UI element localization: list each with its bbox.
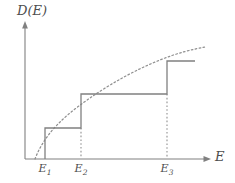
x-axis	[25, 156, 211, 162]
tick-label-E1: E1	[39, 162, 52, 177]
plot-canvas	[0, 0, 235, 183]
tick-label-E2-sub: 2	[83, 168, 88, 177]
tick-label-E3: E3	[161, 162, 174, 177]
y-axis	[22, 21, 28, 159]
tick-label-E3-base: E	[161, 162, 169, 175]
step-function-curve	[45, 61, 195, 159]
density-of-states-figure: D(E) E E1 E2 E3	[0, 0, 235, 183]
tick-label-E2-base: E	[75, 162, 83, 175]
tick-label-E1-base: E	[39, 162, 47, 175]
x-axis-arrowhead	[204, 156, 212, 162]
y-axis-title: D(E)	[17, 3, 47, 18]
smooth-envelope-curve	[35, 47, 205, 159]
y-axis-arrowhead	[22, 21, 28, 29]
tick-label-E1-sub: 1	[47, 168, 52, 177]
x-axis-title: E	[215, 149, 225, 164]
tick-label-E2: E2	[75, 162, 88, 177]
tick-label-E3-sub: 3	[169, 168, 174, 177]
